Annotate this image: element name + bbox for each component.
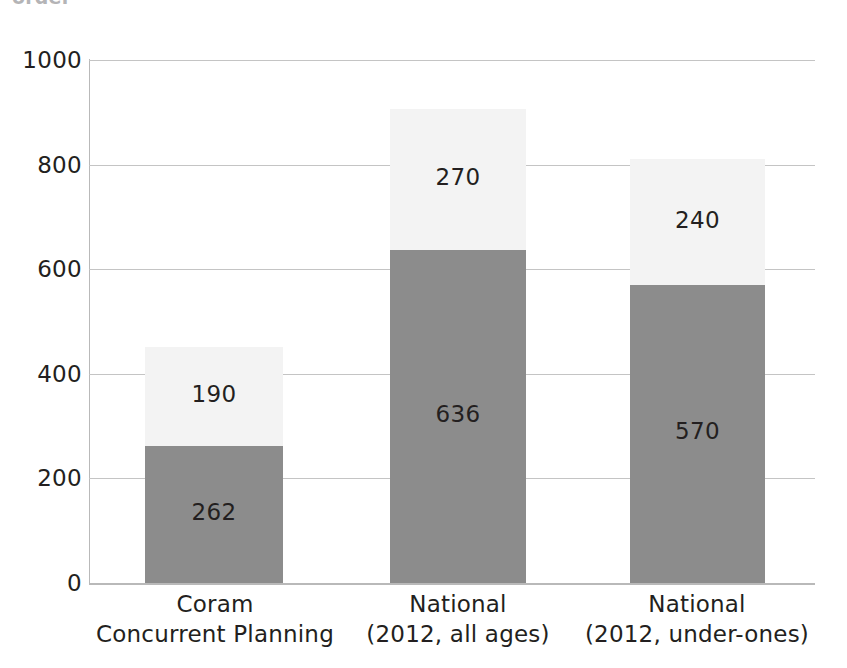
y-axis-tick-600: 600 <box>8 256 82 282</box>
bar-value-upper: 270 <box>436 166 481 189</box>
bar-segment-upper[interactable]: 270 <box>390 109 526 250</box>
x-axis-label-line2: Concurrent Planning <box>79 619 351 649</box>
bar-national-under-ones[interactable]: 240 570 <box>630 159 765 583</box>
x-axis-label-coram-concurrent-planning: Coram Concurrent Planning <box>79 589 351 650</box>
y-axis-tick-200: 200 <box>8 465 82 491</box>
x-axis-label-line1: National <box>648 591 745 617</box>
y-axis-tick-800: 800 <box>8 152 82 178</box>
bar-segment-lower[interactable]: 636 <box>390 250 526 583</box>
y-axis-tick-labels: 1000 800 600 400 200 0 <box>0 0 82 668</box>
stacked-bar-chart: order 1000 800 600 400 200 0 190 262 <box>0 0 847 668</box>
bar-segment-upper[interactable]: 240 <box>630 159 765 285</box>
bar-value-lower: 262 <box>192 501 237 524</box>
x-axis-label-line1: Coram <box>176 591 253 617</box>
y-axis-tick-1000: 1000 <box>8 47 82 73</box>
bar-value-lower: 570 <box>675 420 720 443</box>
bar-segment-lower[interactable]: 570 <box>630 285 765 583</box>
x-axis-label-line2: (2012, under-ones) <box>561 619 833 649</box>
y-axis-tick-0: 0 <box>8 570 82 596</box>
x-axis-line <box>89 583 815 585</box>
x-axis-category-labels: Coram Concurrent Planning National (2012… <box>89 589 815 668</box>
x-axis-label-line1: National <box>409 591 506 617</box>
bar-value-upper: 190 <box>192 383 237 406</box>
bar-value-lower: 636 <box>436 403 481 426</box>
x-axis-label-national-all-ages: National (2012, all ages) <box>322 589 594 650</box>
plot-area: 190 262 270 636 240 570 <box>89 60 815 583</box>
y-axis-tick-400: 400 <box>8 361 82 387</box>
bar-segment-upper[interactable]: 190 <box>145 347 283 446</box>
bar-coram-concurrent-planning[interactable]: 190 262 <box>145 347 283 583</box>
gridline-1000 <box>89 60 815 61</box>
bar-segment-lower[interactable]: 262 <box>145 446 283 583</box>
x-axis-label-national-under-ones: National (2012, under-ones) <box>561 589 833 650</box>
bar-national-all-ages[interactable]: 270 636 <box>390 109 526 583</box>
bar-value-upper: 240 <box>675 209 720 232</box>
x-axis-label-line2: (2012, all ages) <box>322 619 594 649</box>
